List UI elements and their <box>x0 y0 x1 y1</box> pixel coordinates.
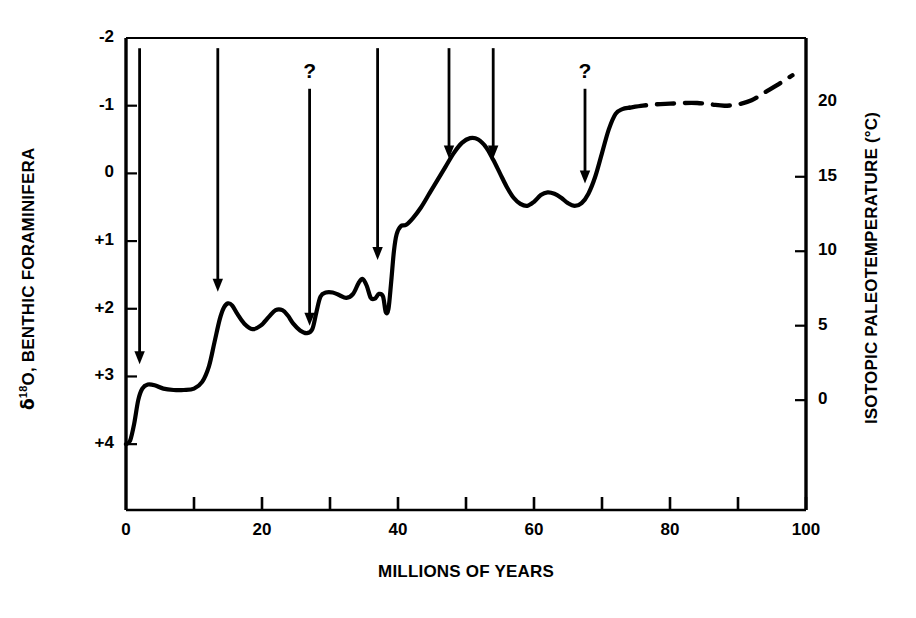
arrow-4 <box>372 48 382 260</box>
x-tick-label-6: 60 <box>504 520 564 540</box>
arrow-7-question-mark: ? <box>573 59 597 83</box>
y-tick-label-left-4: +2 <box>58 298 114 318</box>
y-tick-label-left-3: +1 <box>58 230 114 250</box>
y-tick-label-left-6: +4 <box>58 433 114 453</box>
arrow-7 <box>580 89 590 184</box>
arrow-2 <box>213 48 223 292</box>
arrow-2-head <box>213 279 223 292</box>
y-tick-label-left-0: -2 <box>58 27 114 47</box>
arrow-3-question-mark: ? <box>298 59 322 83</box>
arrow-1-head <box>134 351 144 364</box>
y-axis-label-right: ISOTOPIC PALEOTEMPERATURE (°C) <box>862 98 882 438</box>
y-tick-label-right-4: 0 <box>818 389 874 409</box>
arrow-7-head <box>580 171 590 184</box>
x-tick-label-8: 80 <box>640 520 700 540</box>
arrow-3 <box>304 89 314 326</box>
y-tick-label-right-2: 10 <box>818 240 874 260</box>
x-tick-label-10: 100 <box>776 520 836 540</box>
y-tick-label-left-2: 0 <box>58 162 114 182</box>
isotope-superscript: 18 <box>17 386 29 399</box>
y-tick-label-right-1: 15 <box>818 166 874 186</box>
delta-symbol: δ <box>18 398 38 410</box>
arrow-4-head <box>372 247 382 260</box>
arrow-5 <box>444 48 454 158</box>
y-tick-label-right-0: 20 <box>818 91 874 111</box>
data-curve <box>126 75 792 444</box>
figure-root: δ18O, BENTHIC FORAMINIFERA ISOTOPIC PALE… <box>0 0 916 618</box>
x-tick-label-2: 20 <box>232 520 292 540</box>
x-tick-label-0: 0 <box>96 520 156 540</box>
arrow-6 <box>488 48 498 158</box>
arrow-1 <box>134 48 144 364</box>
y-tick-label-left-1: -1 <box>58 95 114 115</box>
y-tick-label-right-3: 5 <box>818 315 874 335</box>
y-axis-label-left: δ18O, BENTHIC FORAMINIFERA <box>17 119 39 439</box>
axes <box>126 38 806 510</box>
y-tick-label-left-5: +3 <box>58 365 114 385</box>
x-axis-label: MILLIONS OF YEARS <box>126 562 806 582</box>
x-tick-label-4: 40 <box>368 520 428 540</box>
y-axis-label-left-text: O, BENTHIC FORAMINIFERA <box>19 148 38 386</box>
curve-segment-dashed <box>629 75 792 107</box>
